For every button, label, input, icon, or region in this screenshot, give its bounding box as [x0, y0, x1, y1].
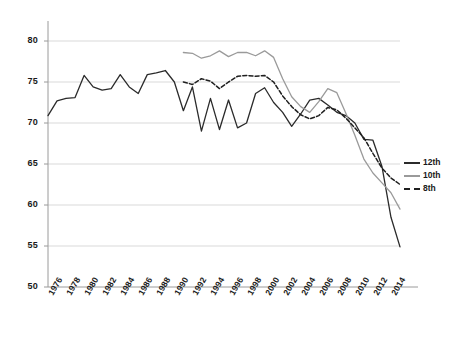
y-axis-tick-label: 75 — [14, 76, 38, 86]
y-axis-tick-label: 80 — [14, 35, 38, 45]
legend-item-8th[interactable]: 8th — [404, 182, 458, 195]
y-axis-tick-label: 50 — [14, 281, 38, 291]
legend-item-12th[interactable]: 12th — [404, 156, 458, 169]
series-line-8th — [183, 75, 400, 184]
legend-swatch-10th — [404, 172, 420, 180]
legend-label-12th: 12th — [423, 158, 440, 167]
gridlines — [48, 41, 400, 287]
legend-swatch-8th — [404, 185, 420, 193]
chart-legend: 12th 10th 8th — [404, 156, 458, 195]
series-lines — [48, 51, 400, 247]
y-axis-tick-label: 55 — [14, 240, 38, 250]
y-axis-tick-label: 65 — [14, 158, 38, 168]
legend-item-10th[interactable]: 10th — [404, 169, 458, 182]
legend-label-8th: 8th — [423, 184, 436, 193]
legend-label-10th: 10th — [423, 171, 440, 180]
y-axis-tick-label: 60 — [14, 199, 38, 209]
line-chart: 80757065605550 1976197819801982198419861… — [0, 0, 458, 340]
y-axis-tick-label: 70 — [14, 117, 38, 127]
legend-swatch-12th — [404, 159, 420, 167]
series-line-12th — [48, 71, 400, 247]
series-line-10th — [183, 51, 400, 209]
